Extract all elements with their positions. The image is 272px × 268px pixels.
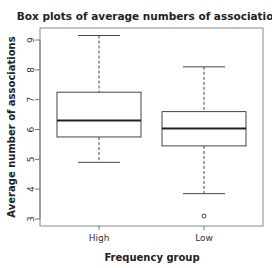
- x-axis-label: Frequency group: [104, 252, 199, 263]
- x-tick-label: High: [89, 233, 110, 243]
- y-axis: 3456789: [26, 37, 40, 222]
- y-tick-label: 6: [26, 126, 36, 132]
- outlier-point: [202, 214, 206, 218]
- y-tick-label: 9: [26, 37, 36, 43]
- y-axis-label: Average number of associations: [6, 36, 17, 217]
- y-tick-label: 5: [26, 156, 36, 162]
- boxes: [57, 36, 246, 218]
- y-tick-label: 4: [26, 186, 36, 192]
- x-tick-label: Low: [195, 233, 213, 243]
- box-plot-chart: Box plots of average numbers of associat…: [0, 0, 272, 268]
- y-tick-label: 8: [26, 67, 36, 73]
- y-tick-label: 3: [26, 216, 36, 222]
- box-low: [162, 67, 246, 218]
- box-high: [57, 36, 141, 163]
- x-axis: HighLow: [89, 226, 213, 243]
- y-tick-label: 7: [26, 97, 36, 103]
- chart-title: Box plots of average numbers of associat…: [17, 10, 272, 22]
